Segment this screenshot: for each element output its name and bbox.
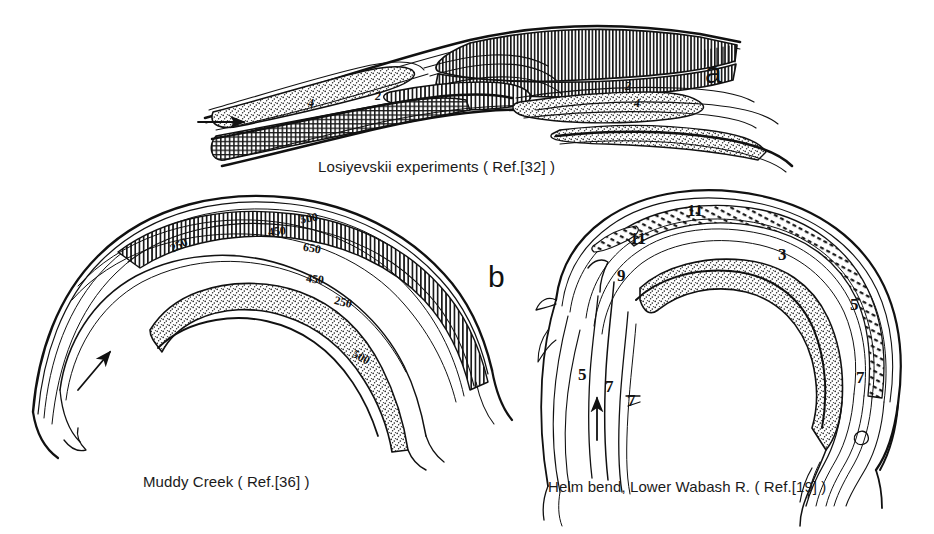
panel-c-label-3: 3 bbox=[778, 245, 787, 265]
contour-label-450-inner: 450 bbox=[305, 271, 324, 288]
caption-panel-b: Muddy Creek ( Ref.[36] ) bbox=[143, 473, 310, 490]
panel-a-artwork bbox=[198, 26, 792, 172]
panel-a-label-2: 2 bbox=[625, 79, 631, 94]
contour-label-450-top: 450 bbox=[267, 223, 286, 240]
panel-c-label-5: 5 bbox=[578, 365, 587, 385]
contour-label-650: 650 bbox=[302, 240, 322, 258]
panel-c-label-6: 7 bbox=[605, 377, 614, 397]
panel-c-label-8: 7 bbox=[856, 368, 865, 388]
panel-letter-b: b bbox=[488, 262, 505, 292]
figure-artwork bbox=[0, 0, 934, 534]
flow-arrow-panel-b bbox=[78, 352, 110, 390]
panel-c-artwork bbox=[536, 190, 901, 526]
figure-container: a Losiyevskii experiments ( Ref.[32] ) 4… bbox=[0, 0, 934, 534]
caption-panel-c: Helm bend, Lower Wabash R. ( Ref.[19] ) bbox=[548, 478, 826, 495]
panel-c-label-7: 7 bbox=[627, 391, 636, 411]
panel-c-label-4: 5 bbox=[850, 295, 859, 315]
caption-panel-a: Losiyevskii experiments ( Ref.[32] ) bbox=[318, 158, 555, 175]
contour-label-500: 500 bbox=[299, 210, 319, 228]
panel-c-label-2: 9 bbox=[617, 266, 626, 286]
panel-c-label-0: 11 bbox=[687, 201, 703, 221]
panel-letter-a: a bbox=[705, 58, 722, 88]
panel-a-label-0: 4 bbox=[308, 96, 314, 111]
panel-a-label-1: 2 bbox=[375, 89, 381, 104]
panel-c-label-1: 11 bbox=[630, 229, 646, 249]
panel-a-label-3: 4 bbox=[634, 96, 640, 111]
